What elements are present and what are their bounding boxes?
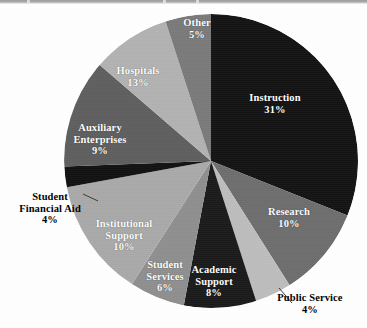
slice-label-student-services: Student Services 6% [134, 259, 196, 294]
slice-label-research-pct: 10% [252, 218, 326, 230]
slice-label-student-financial-aid-name2: Financial Aid [2, 203, 98, 215]
slice-label-other-pct: 5% [166, 29, 228, 41]
slice-label-student-financial-aid-name: Student [32, 191, 68, 202]
slice-label-other-name: Other [183, 17, 210, 28]
slice-label-auxiliary-enterprises: Auxiliary Enterprises 9% [56, 122, 144, 157]
slice-label-instruction-pct: 31% [227, 104, 323, 116]
slice-label-other: Other 5% [166, 17, 228, 40]
slice-label-institutional-support-name: Institutional [96, 218, 153, 229]
slice-label-instruction-name: Instruction [249, 92, 300, 103]
slice-label-auxiliary-enterprises-name2: Enterprises [56, 134, 144, 146]
slice-label-public-service: Public Service 4% [258, 292, 362, 315]
slice-label-public-service-pct: 4% [258, 304, 362, 316]
slice-label-auxiliary-enterprises-name: Auxiliary [78, 122, 122, 133]
slice-label-student-services-pct: 6% [134, 282, 196, 294]
slice-label-student-financial-aid: Student Financial Aid 4% [2, 191, 98, 226]
slice-label-research: Research 10% [252, 206, 326, 229]
slice-label-hospitals-pct: 13% [102, 77, 174, 89]
slice-label-public-service-name: Public Service [277, 292, 342, 303]
slice-label-hospitals: Hospitals 13% [102, 65, 174, 88]
pie-chart: Instruction 31% Research 10% Public Serv… [0, 0, 367, 328]
slice-label-hospitals-name: Hospitals [117, 65, 160, 76]
slice-label-student-services-name2: Services [134, 271, 196, 283]
slice-label-student-financial-aid-pct: 4% [2, 214, 98, 226]
slice-label-institutional-support-name2: Support [82, 230, 166, 242]
slice-label-instruction: Instruction 31% [227, 92, 323, 115]
slice-label-research-name: Research [268, 206, 310, 217]
slice-label-institutional-support-pct: 10% [82, 241, 166, 253]
slice-label-student-services-name: Student [147, 259, 183, 270]
slice-label-academic-support-name: Academic [191, 264, 236, 275]
slice-label-auxiliary-enterprises-pct: 9% [56, 145, 144, 157]
